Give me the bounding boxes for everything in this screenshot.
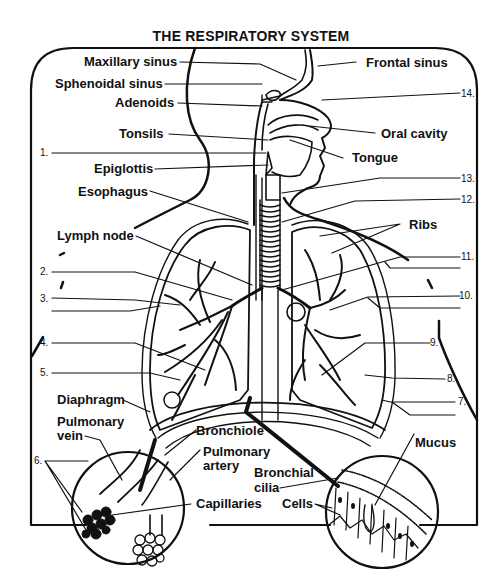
blank-5: 5.: [40, 367, 48, 378]
esophagus-tube: [256, 175, 262, 300]
label-maxillary-sinus: Maxillary sinus: [84, 55, 177, 69]
right-bronchial-tree: [290, 250, 360, 405]
pharynx-front: [262, 104, 268, 150]
label-mucus: Mucus: [415, 436, 456, 450]
label-esophagus: Esophagus: [78, 185, 148, 199]
blank-1: 1.: [40, 147, 48, 158]
alveolus-small: [164, 392, 180, 408]
blank-11: 11.: [461, 251, 474, 262]
label-bronchiole: Bronchiole: [196, 424, 264, 438]
pharynx-back: [254, 102, 262, 225]
left-main-bronchus: [232, 288, 310, 308]
left-lung-outline: [150, 226, 250, 430]
blank-7: 7.: [458, 396, 466, 407]
label-sphenoidal-sinus: Sphenoidal sinus: [55, 77, 163, 91]
label-pulmonary-artery-line1: Pulmonary: [203, 445, 270, 459]
label-adenoids: Adenoids: [115, 96, 174, 110]
label-oral-cavity: Oral cavity: [381, 127, 448, 141]
label-cells: Cells: [282, 497, 313, 511]
blank-13: 13.: [461, 173, 475, 184]
label-tonsils: Tonsils: [119, 127, 164, 141]
diaphragm-outer: [150, 403, 385, 430]
blank-3: 3.: [40, 293, 48, 304]
label-bronchial-cilia-line1: Bronchial: [254, 466, 314, 480]
tongue-shape: [270, 136, 312, 176]
label-pulmonary-vein-line1: Pulmonary: [57, 415, 124, 429]
cell-nuclei: [338, 497, 414, 547]
tick-left-2: [61, 282, 63, 288]
label-frontal-sinus: Frontal sinus: [366, 56, 448, 70]
blank-14: 14.: [461, 88, 475, 99]
epiglottis-flap: [266, 152, 272, 175]
blank-9: 9.: [430, 337, 438, 348]
label-bronchial-cilia-line2: cilia: [254, 481, 279, 495]
palate: [268, 115, 318, 133]
capillary-cluster: [82, 507, 115, 539]
lymph-node-circle: [287, 303, 305, 321]
trachea: [260, 200, 280, 290]
tick-right-1: [428, 280, 432, 288]
label-lymph-node: Lymph node: [57, 229, 134, 243]
blank-6: 6.: [34, 455, 42, 466]
respiratory-diagram: THE RESPIRATORY SYSTEM: [0, 0, 502, 587]
carina: [262, 290, 278, 420]
blank-10: 10.: [459, 290, 473, 301]
sinus-chamber: [266, 91, 280, 101]
label-capillaries: Capillaries: [196, 497, 262, 511]
label-tongue: Tongue: [352, 151, 398, 165]
torso-left-line: [140, 440, 155, 490]
goblet-cell: [364, 505, 374, 532]
label-ribs: Ribs: [409, 218, 437, 232]
blank-8: 8.: [447, 373, 455, 384]
blank-2: 2.: [40, 266, 48, 277]
left-pleura: [142, 219, 248, 438]
label-pulmonary-vein-line2: vein: [57, 429, 83, 443]
blank-12: 12.: [461, 194, 475, 205]
label-pulmonary-artery-line2: artery: [203, 459, 239, 473]
label-epiglottis: Epiglottis: [94, 162, 153, 176]
tick-left-1: [60, 253, 64, 255]
label-diaphragm: Diaphragm: [57, 393, 125, 407]
left-bronchial-tree: [158, 260, 236, 420]
larynx: [266, 175, 280, 200]
blank-4: 4.: [40, 337, 48, 348]
mucus-layer: [338, 470, 432, 534]
